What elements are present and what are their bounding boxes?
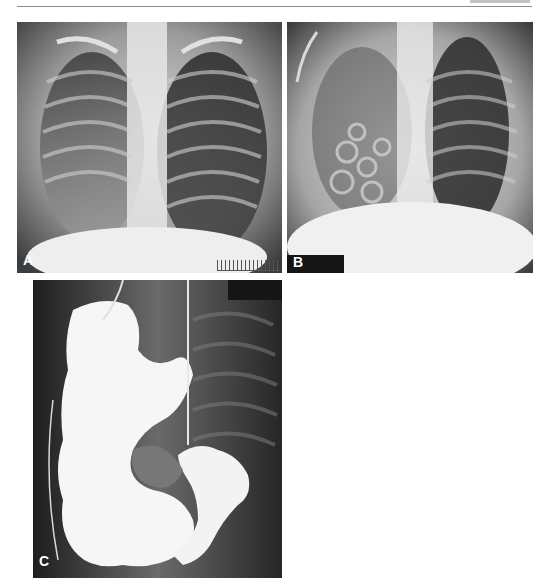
figure-b-label: B <box>293 254 303 270</box>
figure-a-label: A <box>23 252 33 268</box>
page-header-rule <box>17 6 532 7</box>
figure-c-label: C <box>39 553 49 569</box>
figure-a-radiograph: A <box>17 22 282 273</box>
page-header-text-cropped <box>470 0 530 3</box>
figure-b-radiograph: B <box>287 22 533 273</box>
chest-xray-a-image <box>17 22 282 273</box>
scale-ruler <box>217 260 279 271</box>
redaction-box <box>228 280 282 300</box>
chest-xray-b-image <box>287 22 533 273</box>
contrast-xray-c-image <box>33 280 282 578</box>
figure-c-contrast-study: C <box>33 280 282 578</box>
